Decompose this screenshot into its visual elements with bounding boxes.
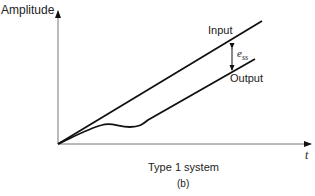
caption: Type 1 system bbox=[148, 161, 219, 173]
output-curve bbox=[58, 59, 255, 144]
y-axis-label: Amplitude bbox=[1, 3, 54, 17]
output-label: Output bbox=[230, 72, 263, 84]
ess-label: ess bbox=[237, 47, 248, 62]
x-axis-label: t bbox=[305, 148, 308, 163]
subfigure-label: (b) bbox=[177, 178, 189, 189]
input-label: Input bbox=[208, 24, 232, 36]
